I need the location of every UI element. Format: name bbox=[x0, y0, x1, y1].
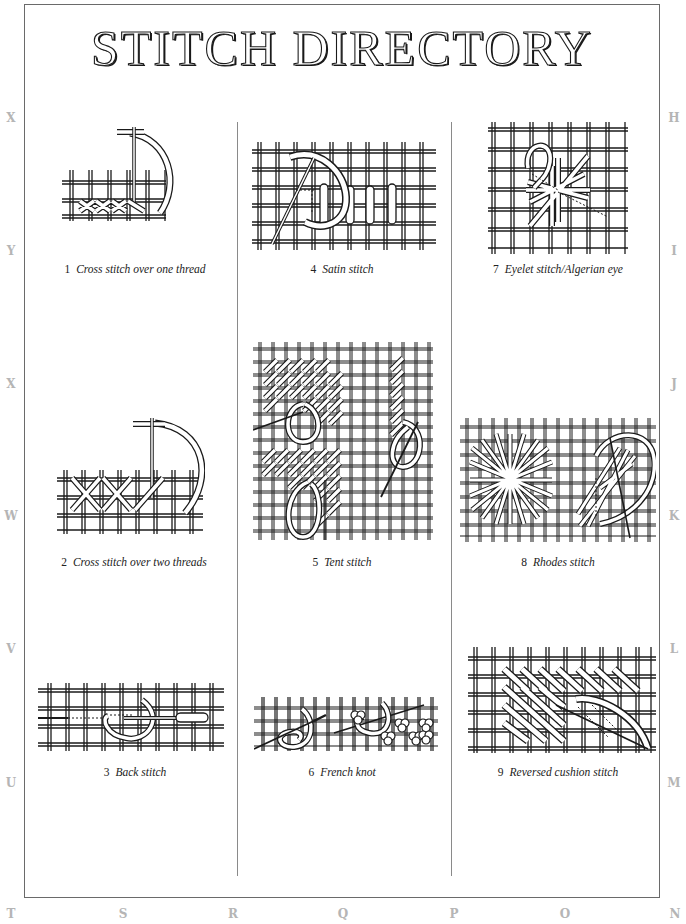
side-letter-bottom-1: T bbox=[4, 908, 18, 920]
side-letter-left-6: U bbox=[4, 777, 18, 789]
stitch-number: 7 bbox=[493, 263, 499, 275]
stitch-number: 1 bbox=[64, 263, 70, 275]
side-letter-right-3: J bbox=[667, 378, 681, 390]
stitch-caption-7: 7Eyelet stitch/Algerian eye bbox=[470, 263, 646, 275]
stitch-number: 8 bbox=[521, 556, 527, 568]
back-stitch-illustration bbox=[36, 683, 226, 751]
stitch-number: 6 bbox=[308, 766, 314, 778]
satin-stitch-illustration bbox=[250, 142, 438, 250]
cross-stitch-one-thread-illustration bbox=[60, 125, 180, 225]
stitch-name: Rhodes stitch bbox=[533, 556, 595, 568]
side-letter-right-5: L bbox=[667, 643, 681, 655]
stitch-caption-3: 3Back stitch bbox=[40, 766, 230, 778]
side-letter-bottom-2: S bbox=[116, 908, 130, 920]
side-letter-left-2: Y bbox=[4, 245, 18, 257]
side-letter-right-4: K bbox=[667, 510, 681, 522]
side-letter-bottom-3: R bbox=[226, 908, 240, 920]
side-letter-right-2: I bbox=[667, 245, 681, 257]
stitch-caption-8: 8Rhodes stitch bbox=[478, 556, 638, 568]
cross-stitch-two-threads-illustration bbox=[55, 418, 205, 538]
reversed-cushion-stitch-illustration bbox=[468, 645, 656, 753]
stitch-number: 9 bbox=[498, 766, 504, 778]
french-knot-illustration bbox=[254, 695, 438, 751]
stitch-name: Eyelet stitch/Algerian eye bbox=[505, 263, 623, 275]
side-letter-left-5: V bbox=[4, 643, 18, 655]
stitch-number: 2 bbox=[61, 556, 67, 568]
side-letter-right-1: H bbox=[667, 112, 681, 124]
side-letter-bottom-4: Q bbox=[336, 908, 350, 920]
side-letter-right-6: M bbox=[667, 777, 681, 789]
stitch-caption-2: 2Cross stitch over two threads bbox=[38, 556, 230, 568]
stitch-caption-1: 1Cross stitch over one thread bbox=[40, 263, 230, 275]
stitch-name: Tent stitch bbox=[324, 556, 371, 568]
rhodes-stitch-illustration bbox=[460, 418, 656, 542]
side-letter-bottom-7: N bbox=[668, 908, 682, 920]
stitch-name: Cross stitch over two threads bbox=[73, 556, 207, 568]
eyelet-stitch-illustration bbox=[488, 122, 628, 254]
stitch-name: Cross stitch over one thread bbox=[76, 263, 205, 275]
stitch-number: 3 bbox=[104, 766, 110, 778]
stitch-caption-5: 5Tent stitch bbox=[262, 556, 422, 568]
page-title: STITCH DIRECTORY bbox=[24, 20, 660, 76]
stitch-name: Reversed cushion stitch bbox=[510, 766, 619, 778]
column-divider-1 bbox=[237, 122, 238, 876]
stitch-name: French knot bbox=[320, 766, 375, 778]
side-letter-left-4: W bbox=[4, 510, 18, 522]
side-letter-bottom-6: O bbox=[558, 908, 572, 920]
stitch-name: Satin stitch bbox=[322, 263, 373, 275]
side-letter-bottom-5: P bbox=[447, 908, 461, 920]
side-letter-left-1: X bbox=[4, 112, 18, 124]
side-letter-left-3: X bbox=[4, 378, 18, 390]
stitch-caption-4: 4Satin stitch bbox=[262, 263, 422, 275]
stitch-caption-6: 6French knot bbox=[262, 766, 422, 778]
stitch-name: Back stitch bbox=[115, 766, 166, 778]
stitch-number: 5 bbox=[313, 556, 319, 568]
tent-stitch-illustration bbox=[253, 342, 433, 542]
stitch-number: 4 bbox=[310, 263, 316, 275]
column-divider-2 bbox=[451, 122, 452, 876]
stitch-caption-9: 9Reversed cushion stitch bbox=[468, 766, 648, 778]
